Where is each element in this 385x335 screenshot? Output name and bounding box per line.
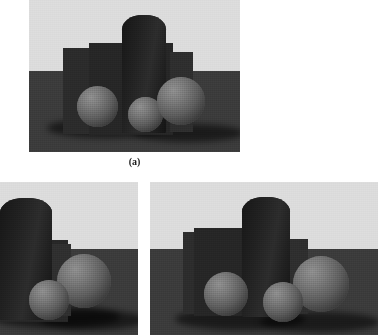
scene-b <box>0 182 138 335</box>
sphere-center-b <box>29 280 69 320</box>
sphere-left-c-shading <box>204 272 248 316</box>
panel-a-caption: (a) <box>29 156 240 167</box>
figure-panel-a <box>29 0 240 152</box>
sphere-right-a-shading <box>157 77 205 125</box>
sphere-left-a <box>77 86 118 127</box>
sphere-center-c <box>263 282 303 322</box>
scene-c <box>150 182 378 335</box>
figure-panel-b <box>0 182 138 335</box>
figure-page: (a) <box>0 0 385 335</box>
sphere-center-b-shading <box>29 280 69 320</box>
sphere-left-c <box>204 272 248 316</box>
sphere-left-a-shading <box>77 86 118 127</box>
figure-panel-c <box>150 182 378 335</box>
sphere-center-c-shading <box>263 282 303 322</box>
scene-a <box>29 0 240 152</box>
sphere-right-a <box>157 77 205 125</box>
